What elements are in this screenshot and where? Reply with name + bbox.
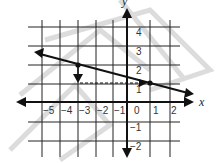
x-tick-labels: −5 −4 −3 −2 −1 0 1 2 bbox=[43, 105, 177, 116]
point bbox=[75, 62, 80, 67]
x-axis-label: x bbox=[198, 95, 205, 109]
svg-text:2: 2 bbox=[171, 105, 177, 116]
svg-text:−2: −2 bbox=[130, 141, 142, 152]
coordinate-plane: x y −5 −4 −3 −2 −1 0 1 2 4 3 2 1 −1 −2 bbox=[0, 0, 217, 163]
svg-text:−1: −1 bbox=[114, 105, 126, 116]
svg-text:3: 3 bbox=[136, 46, 142, 57]
arrow-left-icon bbox=[16, 97, 26, 107]
y-axis: y bbox=[121, 0, 132, 158]
svg-text:−5: −5 bbox=[43, 105, 55, 116]
y-axis-label: y bbox=[121, 0, 128, 8]
arrow-right-icon bbox=[184, 97, 194, 107]
svg-text:4: 4 bbox=[136, 27, 142, 38]
svg-text:0: 0 bbox=[134, 105, 140, 116]
svg-text:−4: −4 bbox=[61, 105, 73, 116]
watermark bbox=[10, 0, 210, 160]
point bbox=[147, 80, 152, 85]
svg-text:1: 1 bbox=[153, 105, 159, 116]
svg-text:−1: −1 bbox=[130, 122, 142, 133]
svg-text:−2: −2 bbox=[97, 105, 109, 116]
svg-text:2: 2 bbox=[136, 65, 142, 76]
down-arrow-icon bbox=[73, 74, 83, 83]
arrow-icon bbox=[184, 88, 194, 98]
svg-text:−3: −3 bbox=[79, 105, 91, 116]
